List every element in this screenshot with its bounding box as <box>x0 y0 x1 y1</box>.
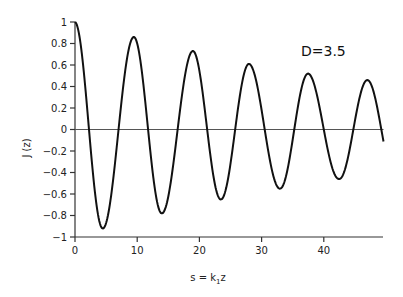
y-axis-label: J (z) <box>21 138 32 158</box>
y-tick-label: −0.2 <box>43 146 67 157</box>
x-tick-label: 10 <box>131 245 144 256</box>
y-tick-label: −0.8 <box>43 210 67 221</box>
y-tick-label: 0.6 <box>51 60 67 71</box>
x-tick-label: 0 <box>72 245 78 256</box>
x-tick-label: 20 <box>193 245 206 256</box>
y-tick-label: 0 <box>61 124 67 135</box>
x-tick-label: 30 <box>255 245 268 256</box>
y-tick-label: 0.4 <box>51 81 67 92</box>
x-axis-label: s = k1z <box>190 272 225 286</box>
y-tick-label: 0.8 <box>51 38 67 49</box>
y-tick-label: −0.6 <box>43 189 67 200</box>
y-tick-label: −1 <box>52 232 67 243</box>
y-tick-label: 0.2 <box>51 103 67 114</box>
y-tick-label: 1 <box>61 17 67 28</box>
chart: 10.80.60.40.20−0.2−0.4−0.6−0.8−1 0102030… <box>0 0 403 297</box>
y-tick-label: −0.4 <box>43 167 67 178</box>
annotation-D: D=3.5 <box>301 43 346 59</box>
y-axis: 10.80.60.40.20−0.2−0.4−0.6−0.8−1 <box>43 17 75 243</box>
x-tick-label: 40 <box>317 245 330 256</box>
x-axis: 010203040 <box>72 237 383 256</box>
